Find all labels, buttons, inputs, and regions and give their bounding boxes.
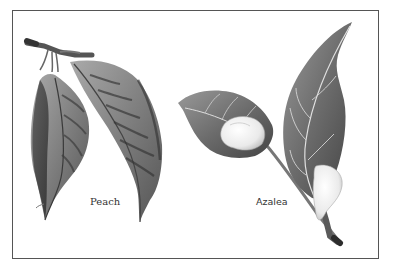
azalea-gall-stem xyxy=(313,165,342,220)
azalea-label: Azalea xyxy=(256,196,288,207)
peach-leaf-left xyxy=(31,74,89,220)
peach-label: Peach xyxy=(90,196,120,207)
botanical-illustration xyxy=(0,0,393,278)
azalea-gall-leaf xyxy=(221,116,265,150)
